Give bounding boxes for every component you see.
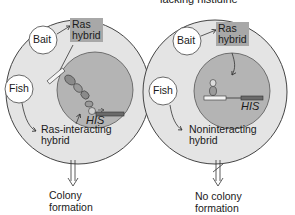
ras-hybrid-line2: hybrid	[72, 30, 101, 41]
fish-product-line2: hybrid	[41, 135, 112, 146]
fish-label-left: Fish	[9, 83, 29, 94]
ras-hybrid-box-right: Ras hybrid	[216, 22, 249, 46]
fish-label-right: Fish	[153, 85, 173, 96]
his-gene-label-right: HIS	[241, 100, 259, 112]
outcome-line1: Colony	[49, 189, 93, 201]
outcome-right: No colony formation	[195, 190, 242, 214]
fish-product-label-right: Noninteracting hybrid	[189, 124, 257, 146]
ras-hybrid-box-left: Ras hybrid	[70, 18, 103, 42]
outcome-line2: formation	[195, 202, 242, 214]
outcome-line1: No colony	[195, 190, 242, 202]
ras-hybrid-line2: hybrid	[218, 34, 247, 45]
bait-label-right: Bait	[177, 35, 195, 46]
outcome-left: Colony formation	[49, 189, 93, 213]
fish-product-label-left: Ras-interacting hybrid	[41, 124, 112, 146]
fish-product-line2: hybrid	[189, 135, 257, 146]
outcome-line2: formation	[49, 201, 93, 213]
bait-label-left: Bait	[33, 34, 51, 45]
